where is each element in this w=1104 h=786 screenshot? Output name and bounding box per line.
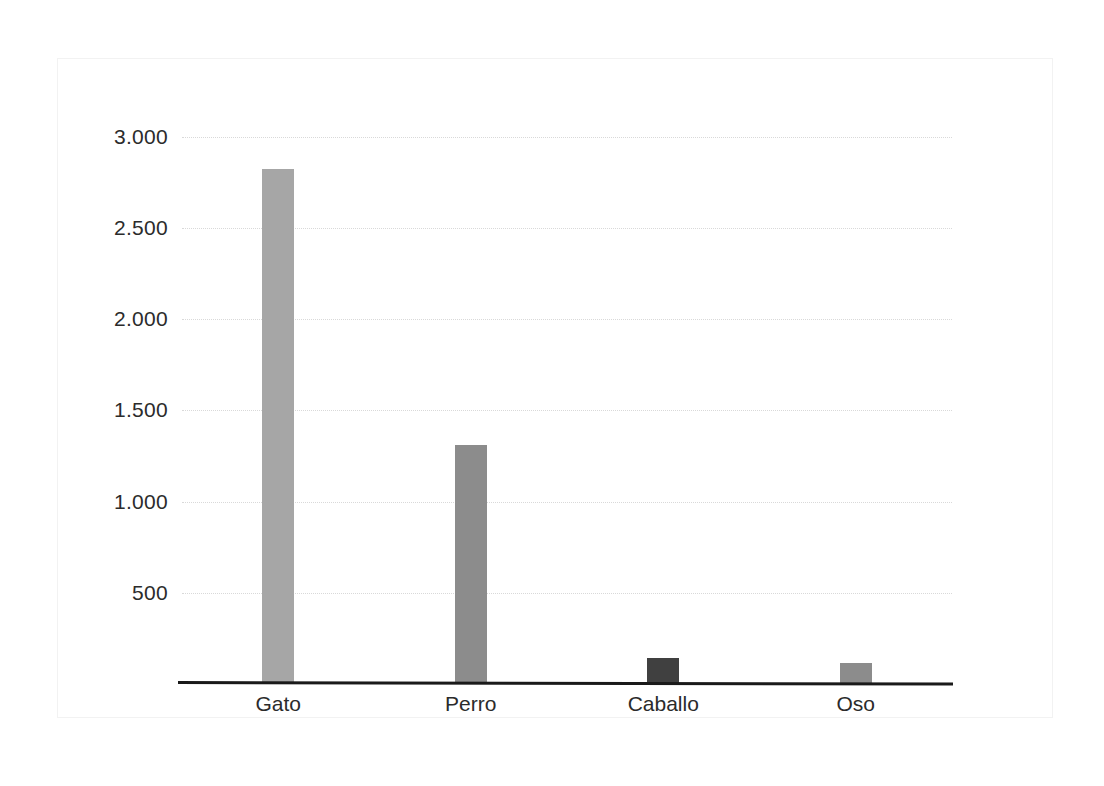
x-axis-tick-label: Oso xyxy=(836,692,875,716)
y-axis-tick-label: 2.000 xyxy=(0,307,168,331)
bar-perro[interactable] xyxy=(455,445,487,684)
y-axis-tick-label: 3.000 xyxy=(0,125,168,149)
bar-oso[interactable] xyxy=(840,663,872,684)
x-axis-tick-label: Caballo xyxy=(628,692,699,716)
y-axis-tick-label: 500 xyxy=(0,581,168,605)
x-axis-tick-labels: GatoPerroCaballoOso xyxy=(182,692,952,732)
bars-layer xyxy=(182,100,952,684)
bar-caballo[interactable] xyxy=(647,658,679,684)
y-axis-tick-label: 2.500 xyxy=(0,216,168,240)
y-axis-tick-labels: 3.0002.5002.0001.5001.000500 xyxy=(0,100,168,684)
x-axis-tick-label: Gato xyxy=(255,692,301,716)
y-axis-tick-label: 1.500 xyxy=(0,398,168,422)
bar-gato[interactable] xyxy=(262,169,294,684)
x-axis-tick-label: Perro xyxy=(445,692,496,716)
y-axis-tick-label: 1.000 xyxy=(0,490,168,514)
bar-chart: 3.0002.5002.0001.5001.000500 GatoPerroCa… xyxy=(0,0,1104,786)
